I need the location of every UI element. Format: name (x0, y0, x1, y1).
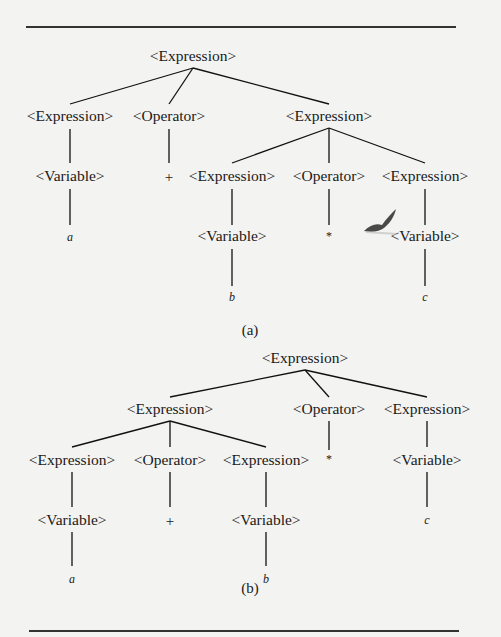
tree-a-l1-operator: <Operator> (133, 108, 206, 124)
tree-b-l2-expression-a: <Expression> (29, 452, 115, 468)
tree-a-l2-operator: <Operator> (293, 168, 366, 184)
tree-b-caption: (b) (241, 580, 259, 597)
tree-a-l2-expression-left: <Expression> (189, 168, 275, 184)
tree-b-leaf-c: c (424, 513, 429, 528)
tree-b-l1-operator: <Operator> (293, 401, 366, 417)
tree-b-l3-variable-b: <Variable> (231, 512, 300, 528)
tree-b-l2-variable-c: <Variable> (392, 452, 461, 468)
tree-b-l1-expression-right: <Expression> (384, 401, 470, 417)
tree-b-leaf-b: b (263, 572, 269, 587)
tree-a-leaf-b: b (229, 290, 235, 305)
tree-edges (0, 0, 501, 637)
ink-smudge-mark (362, 207, 402, 237)
tree-a-l3-variable-b: <Variable> (197, 228, 266, 244)
tree-a-leaf-a: a (67, 230, 73, 245)
tree-a-caption: (a) (242, 322, 259, 339)
tree-b-plus-symbol: + (166, 513, 174, 530)
tree-b-root: <Expression> (262, 350, 348, 366)
tree-b-times-symbol: * (326, 452, 332, 467)
tree-b-l2-expression-b: <Expression> (223, 452, 309, 468)
tree-b-l1-expression-left: <Expression> (127, 401, 213, 417)
tree-a-l2-expression-right: <Expression> (382, 168, 468, 184)
tree-b-leaf-a: a (69, 572, 75, 587)
tree-a-root: <Expression> (150, 48, 236, 64)
tree-a-l1-expression-left: <Expression> (27, 108, 113, 124)
tree-a-times-symbol: * (326, 229, 332, 244)
tree-b-l2-operator: <Operator> (134, 452, 207, 468)
tree-a-leaf-c: c (422, 290, 427, 305)
tree-b-l3-variable-a: <Variable> (37, 512, 106, 528)
tree-a-l2-variable: <Variable> (35, 168, 104, 184)
tree-a-plus-symbol: + (165, 169, 173, 186)
tree-a-l1-expression-right: <Expression> (286, 108, 372, 124)
